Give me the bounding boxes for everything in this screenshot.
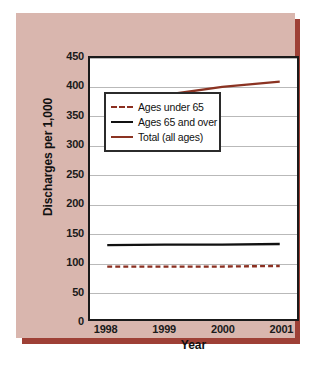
caption-strip (16, 349, 299, 361)
legend-item-total-all-ages: Total (all ages) (111, 130, 213, 144)
y-axis-tick-label: 50 (50, 286, 84, 298)
legend-swatch-solid-red-line-icon (111, 132, 133, 142)
y-axis-tick-label: 250 (50, 168, 84, 180)
y-axis-tick-label: 450 (50, 50, 84, 62)
x-axis-tick-label: 1998 (94, 323, 118, 335)
y-axis-tick-label: 200 (50, 197, 84, 209)
legend-item-ages-65-and-over: Ages 65 and over (111, 115, 213, 129)
y-axis-tick-labels: 050100150200250300350400450 (46, 56, 84, 321)
legend-label: Ages under 65 (138, 101, 204, 113)
x-axis-tick-label: 2001 (270, 323, 294, 335)
y-axis-tick-label: 400 (50, 79, 84, 91)
legend-swatch-dashed-line-icon (111, 102, 133, 112)
y-axis-tick-label: 0 (50, 315, 84, 327)
x-axis-tick-labels: 1998199920002001 (88, 323, 299, 339)
y-axis-tick-label: 100 (50, 256, 84, 268)
legend-label: Total (all ages) (138, 131, 203, 143)
y-axis-tick-label: 150 (50, 227, 84, 239)
series-line (107, 244, 279, 245)
x-axis-tick-label: 2000 (211, 323, 235, 335)
chart-figure-panel: Discharges per 1,000 0501001502002503003… (16, 13, 295, 338)
y-axis-tick-label: 350 (50, 109, 84, 121)
series-line (107, 266, 279, 267)
y-axis-tick-label: 300 (50, 138, 84, 150)
x-axis-tick-label: 1999 (152, 323, 176, 335)
legend-item-ages-under-65: Ages under 65 (111, 100, 213, 114)
legend-swatch-solid-black-line-icon (111, 117, 133, 127)
legend-label: Ages 65 and over (138, 116, 217, 128)
chart-legend: Ages under 65 Ages 65 and over Total (al… (104, 92, 221, 152)
